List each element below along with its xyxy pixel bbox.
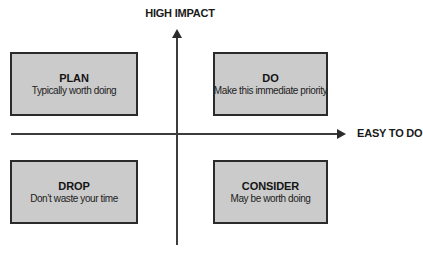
quadrant-consider-subtitle: May be worth doing <box>230 193 310 204</box>
quadrant-do-subtitle: Make this immediate priority <box>214 85 327 96</box>
quadrant-do: DO Make this immediate priority <box>213 52 328 116</box>
quadrant-drop-title: DROP <box>58 180 89 192</box>
right-arrowhead-icon <box>337 129 346 139</box>
quadrant-drop: DROP Don’t waste your time <box>10 160 138 224</box>
vertical-axis-label: HIGH IMPACT <box>145 7 215 19</box>
horizontal-axis-line <box>11 133 338 135</box>
quadrant-consider: CONSIDER May be worth doing <box>213 160 328 224</box>
quadrant-consider-title: CONSIDER <box>242 180 299 192</box>
quadrant-plan-title: PLAN <box>59 72 89 84</box>
quadrant-plan-subtitle: Typically worth doing <box>32 85 116 96</box>
up-arrowhead-icon <box>172 29 182 38</box>
horizontal-axis-label: EASY TO DO <box>357 127 422 139</box>
vertical-axis-line <box>176 37 178 245</box>
quadrant-do-title: DO <box>262 72 278 84</box>
priority-matrix-diagram: HIGH IMPACT EASY TO DO PLAN Typically wo… <box>0 0 423 254</box>
quadrant-plan: PLAN Typically worth doing <box>10 52 138 116</box>
quadrant-drop-subtitle: Don’t waste your time <box>30 193 118 204</box>
